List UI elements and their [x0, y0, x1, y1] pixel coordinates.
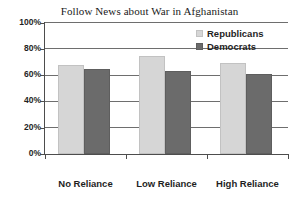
legend-label-democrats: Democrats — [207, 41, 256, 52]
x-category-label: High Reliance — [207, 178, 288, 189]
bar-group — [139, 22, 191, 154]
y-axis-labels: 0%20%40%60%80%100% — [0, 0, 41, 207]
y-tick-60% — [40, 75, 45, 76]
y-tick-20% — [40, 128, 45, 129]
bar-republicans-low-reliance — [139, 56, 165, 154]
bar-group — [58, 22, 110, 154]
x-category-label: No Reliance — [45, 178, 126, 189]
legend-swatch-republicans — [196, 30, 203, 37]
y-tick-label-40%: 40% — [3, 96, 41, 105]
legend-item-democrats: Democrats — [196, 40, 264, 53]
bar-democrats-low-reliance — [165, 71, 191, 154]
chart-title: Follow News about War in Afghanistan — [0, 5, 299, 17]
bar-democrats-high-reliance — [246, 74, 272, 154]
y-tick-label-60%: 60% — [3, 70, 41, 79]
y-tick-label-80%: 80% — [3, 44, 41, 53]
bar-democrats-no-reliance — [84, 69, 110, 154]
legend-item-republicans: Republicans — [196, 27, 264, 40]
x-axis-line — [45, 154, 288, 155]
bar-republicans-no-reliance — [58, 65, 84, 154]
x-tick — [126, 154, 127, 159]
bar-chart: Follow News about War in Afghanistan 0%2… — [0, 0, 299, 207]
y-tick-40% — [40, 101, 45, 102]
x-tick — [288, 154, 289, 159]
x-category-label: Low Reliance — [126, 178, 207, 189]
bar-republicans-high-reliance — [220, 63, 246, 154]
y-tick-100% — [40, 23, 45, 24]
x-tick — [45, 154, 46, 159]
legend-label-republicans: Republicans — [207, 28, 264, 39]
y-tick-label-100%: 100% — [3, 18, 41, 27]
y-tick-label-20%: 20% — [3, 123, 41, 132]
x-tick — [207, 154, 208, 159]
chart-legend: Republicans Democrats — [196, 27, 264, 53]
y-tick-label-0%: 0% — [3, 149, 41, 158]
legend-swatch-democrats — [196, 43, 203, 50]
y-axis-line — [44, 22, 45, 155]
y-tick-80% — [40, 49, 45, 50]
